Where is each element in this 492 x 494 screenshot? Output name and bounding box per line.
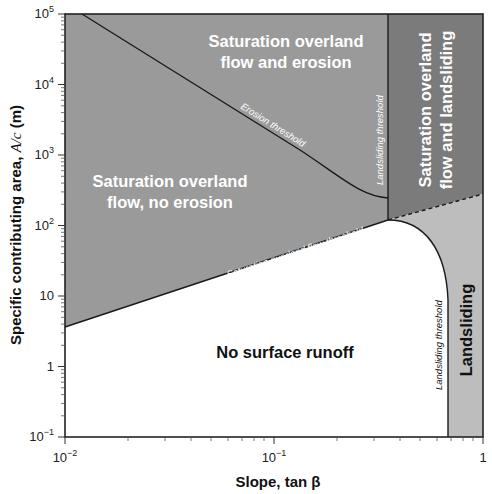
label-sof-erosion-line1: Saturation overland [209, 32, 364, 50]
label-landsliding-threshold-lower: Landsliding threshold [433, 299, 444, 390]
phase-diagram: 105 104 103 102 10 1 10−1 10−2 10−1 1 Sl… [0, 0, 492, 494]
label-sof-erosion-line2: flow and erosion [220, 53, 351, 71]
y-tick-1e5: 105 [35, 4, 54, 21]
y-tick-labels: 105 104 103 102 10 1 10−1 [29, 4, 54, 444]
y-tick-1e-1: 10−1 [29, 427, 54, 444]
label-sof-landsliding-line2: flow and landsliding [437, 31, 455, 190]
region-saturation-landsliding [388, 14, 483, 220]
y-tick-1e3: 103 [35, 145, 54, 162]
x-tick-1: 1 [479, 450, 486, 465]
label-sof-landsliding-line1: Saturation overland [416, 33, 434, 188]
x-tick-labels: 10−2 10−1 1 [53, 448, 487, 465]
y-tick-1e4: 104 [35, 75, 54, 92]
label-no-surface-runoff: No surface runoff [216, 343, 354, 361]
label-landsliding-threshold-upper: Landsliding threshold [374, 94, 385, 185]
y-tick-10: 10 [40, 288, 54, 303]
y-tick-1e2: 102 [35, 216, 54, 233]
y-axis-title: Specific contributing area, A/c (m) [7, 105, 24, 345]
y-tick-1: 1 [47, 359, 54, 374]
label-sof-noerosion-line1: Saturation overland [93, 172, 248, 190]
x-axis-title: Slope, tan β [236, 473, 321, 490]
x-tick-1e-2: 10−2 [53, 448, 78, 465]
x-tick-1e-1: 10−1 [262, 448, 287, 465]
label-sof-noerosion-line2: flow, no erosion [107, 193, 233, 211]
label-landsliding: Landsliding [457, 284, 475, 377]
